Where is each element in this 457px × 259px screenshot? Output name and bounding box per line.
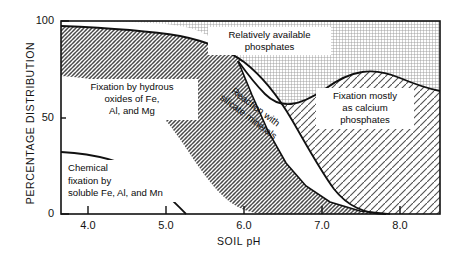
y-tick-label-0: 0	[20, 207, 54, 219]
x-tick-label-6: 6.0	[224, 219, 264, 231]
y-tick-label-50: 50	[20, 111, 54, 123]
x-tick-label-7: 7.0	[302, 219, 342, 231]
y-tick-label-100: 100	[20, 14, 54, 26]
x-tick-label-4: 4.0	[68, 219, 108, 231]
x-tick-label-8: 8.0	[380, 219, 420, 231]
region-label-hydrous-oxides: Fixation by hydrous oxides of Fe, Al, an…	[66, 79, 198, 120]
region-label-chemical-fixation: Chemical fixation by soluble Fe, Al, and…	[66, 160, 194, 202]
figure-container: PERCENTAGE DISTRIBUTION SOIL pH 4.0 5.0 …	[0, 0, 457, 259]
y-axis-title: PERCENTAGE DISTRIBUTION	[24, 33, 36, 213]
x-axis-title: SOIL pH	[196, 235, 282, 247]
x-tick-label-5: 5.0	[146, 219, 186, 231]
region-label-relatively-available: Relatively available phosphates	[208, 27, 331, 55]
region-label-calcium-phosphates: Fixation mostly as calcium phosphates	[316, 88, 414, 129]
